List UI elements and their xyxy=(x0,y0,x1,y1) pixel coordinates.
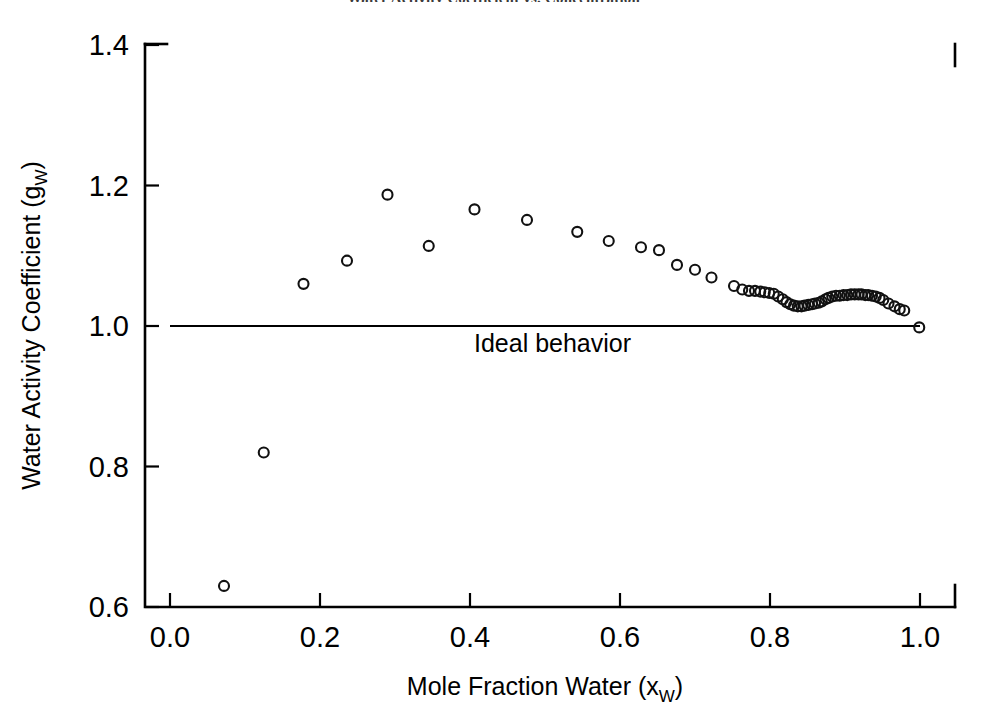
ideal-behavior-label: Ideal behavior xyxy=(474,329,631,357)
data-point-marker xyxy=(299,279,309,289)
data-point-marker xyxy=(690,265,700,275)
x-axis-tick-label: 0.0 xyxy=(150,621,190,653)
y-axis-tick-label: 1.0 xyxy=(89,310,129,342)
data-point-marker xyxy=(604,236,614,246)
y-axis-title: Water Activity Coefficient (gW) xyxy=(17,161,51,490)
data-point-marker xyxy=(219,581,229,591)
data-point-marker xyxy=(522,215,532,225)
figure-container: Water Activity Coefficient vs. Concentra… xyxy=(0,0,987,721)
data-point-marker xyxy=(572,227,582,237)
data-point-marker xyxy=(636,242,646,252)
x-axis-tick-label: 0.8 xyxy=(750,621,790,653)
data-point-marker xyxy=(672,260,682,270)
x-axis-title: Mole Fraction Water (xW) xyxy=(407,672,683,706)
y-axis-tick-label: 1.2 xyxy=(89,170,129,202)
x-axis-tick-label: 1.0 xyxy=(900,621,940,653)
x-axis-tick-label: 0.6 xyxy=(600,621,640,653)
y-axis-tick-label: 0.6 xyxy=(89,591,129,623)
data-point-marker xyxy=(914,322,924,332)
x-axis-tick-label: 0.4 xyxy=(450,621,490,653)
y-axis-tick-label: 1.4 xyxy=(89,29,129,61)
data-point-marker xyxy=(342,256,352,266)
data-series xyxy=(219,190,924,591)
data-point-marker xyxy=(424,241,434,251)
data-point-marker xyxy=(707,273,717,283)
data-point-marker xyxy=(654,245,664,255)
data-point-marker xyxy=(383,190,393,200)
data-point-marker xyxy=(470,204,480,214)
data-point-marker xyxy=(259,447,269,457)
y-axis-tick-label: 0.8 xyxy=(89,451,129,483)
x-axis-tick-label: 0.2 xyxy=(300,621,340,653)
scatter-plot: 0.60.81.01.21.40.00.20.40.60.81.0Ideal b… xyxy=(0,0,987,721)
